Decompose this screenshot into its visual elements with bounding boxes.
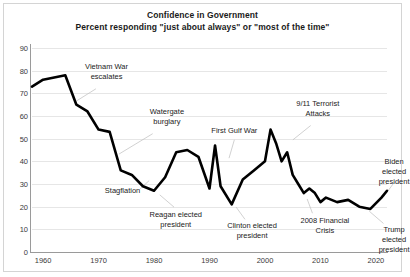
x-axis-tick-label: 2020	[368, 256, 385, 265]
x-axis-tick-label: 2010	[312, 256, 329, 265]
series-path	[32, 75, 387, 209]
y-axis-tick-label: 60	[20, 112, 28, 121]
annotation-vietnam-war: Vietnam War escalates	[85, 62, 128, 82]
annotation-watergate-burglary: Watergate burglary	[150, 107, 184, 127]
x-axis-line	[30, 252, 388, 253]
y-axis-tick-label: 30	[20, 180, 28, 189]
page-title: Confidence in Government	[4, 10, 401, 21]
y-axis-tick-label: 10	[20, 225, 28, 234]
x-axis-tick-label: 1990	[201, 256, 218, 265]
y-axis-tick-label: 70	[20, 89, 28, 98]
annotation-financial-crisis-2008: 2008 Financial Crisis	[294, 216, 356, 236]
annotation-reagan-elected: Reagan elected president	[149, 210, 202, 230]
annotation-trump-elected: Trump elected president	[379, 225, 410, 254]
y-axis-tick-label: 0	[24, 248, 28, 257]
y-axis-tick-label: 20	[20, 202, 28, 211]
x-axis-tick-label: 2000	[257, 256, 274, 265]
x-axis-tick-label: 1970	[90, 256, 107, 265]
annotation-biden-elected: Biden elected president	[379, 157, 410, 186]
y-axis-tick-label: 40	[20, 157, 28, 166]
plot-area: 0102030405060708090 19601970198019902000…	[32, 48, 387, 252]
chart-frame: Confidence in Government Percent respond…	[3, 3, 402, 272]
y-axis-tick-label: 80	[20, 66, 28, 75]
y-axis-tick-label: 50	[20, 134, 28, 143]
chart-title-block: Confidence in Government Percent respond…	[4, 10, 401, 32]
chart-subtitle: Percent responding "just about always" o…	[4, 22, 401, 33]
y-axis-line	[30, 44, 31, 252]
x-axis-tick-label: 1960	[35, 256, 52, 265]
annotation-first-gulf-war: First Gulf War	[211, 126, 257, 136]
x-axis-tick-label: 1980	[146, 256, 163, 265]
annotation-nine-eleven-attacks: 9/11 Terrorist Attacks	[296, 99, 339, 119]
annotation-stagflation: Stagflation	[105, 186, 140, 196]
annotation-clinton-elected: Clinton elected president	[227, 221, 277, 241]
y-axis-tick-label: 90	[20, 44, 28, 53]
